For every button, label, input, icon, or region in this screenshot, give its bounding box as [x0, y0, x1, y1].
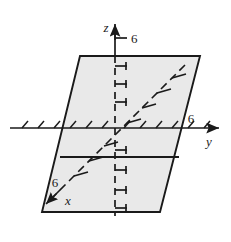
x-axis-label: x — [64, 193, 71, 208]
y-axis-tick-label-6: 6 — [188, 111, 195, 126]
z-axis-tick-label-6: 6 — [131, 31, 138, 46]
shaded-plane — [42, 56, 200, 212]
z-axis-label: z — [102, 20, 108, 35]
y-axis-label: y — [204, 134, 212, 149]
x-axis-tick-label-6: 6 — [52, 175, 59, 190]
coordinate-system-diagram: z 6 y 6 x 6 — [0, 0, 231, 242]
figure-canvas: z 6 y 6 x 6 — [0, 0, 231, 242]
